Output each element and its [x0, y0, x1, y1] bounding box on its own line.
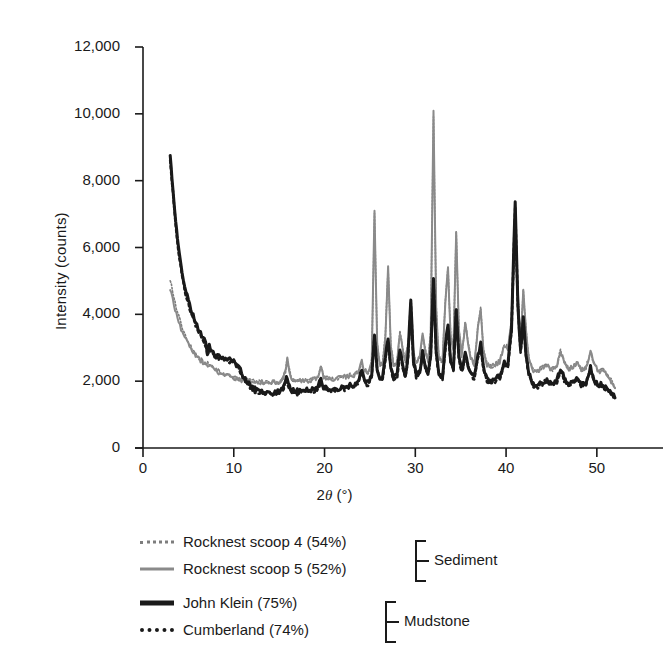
y-tick-label: 6,000 — [28, 238, 120, 255]
legend-group-label: Mudstone — [404, 612, 470, 629]
x-tick-label: 40 — [476, 459, 536, 476]
x-tick-label: 10 — [204, 459, 264, 476]
legend-swatch-john-klein — [140, 597, 174, 609]
legend-item[interactable]: John Klein (75%) — [140, 589, 570, 616]
y-tick-label: 4,000 — [28, 304, 120, 321]
x-tick-label: 20 — [295, 459, 355, 476]
legend-label: Rocknest scoop 5 (52%) — [183, 560, 346, 577]
xrd-figure: Intensity (counts) 2θ (°) 02,0004,0006,0… — [0, 0, 669, 664]
x-tick-label: 50 — [567, 459, 627, 476]
legend-swatch-rocknest-scoop-4 — [140, 536, 174, 548]
legend-item[interactable]: Cumberland (74%) — [140, 616, 570, 643]
y-tick-label: 2,000 — [28, 371, 120, 388]
y-tick-label: 10,000 — [28, 104, 120, 121]
legend-label: Cumberland (74%) — [183, 621, 309, 638]
legend-swatch-rocknest-scoop-5 — [140, 563, 174, 575]
legend-label: Rocknest scoop 4 (54%) — [183, 533, 346, 550]
y-tick-label: 12,000 — [28, 37, 120, 54]
series-line — [170, 111, 615, 388]
y-tick-label: 0 — [28, 438, 120, 455]
legend-item[interactable]: Rocknest scoop 4 (54%) — [140, 528, 570, 555]
x-tick-label: 0 — [113, 459, 173, 476]
x-tick-label: 30 — [385, 459, 445, 476]
legend-group-label: Sediment — [434, 551, 497, 568]
legend: Rocknest scoop 4 (54%) Rocknest scoop 5 … — [140, 528, 570, 643]
series-line — [170, 117, 615, 388]
legend-swatch-cumberland — [140, 624, 174, 636]
y-tick-label: 8,000 — [28, 171, 120, 188]
legend-item[interactable]: Rocknest scoop 5 (52%) — [140, 555, 570, 582]
legend-label: John Klein (75%) — [183, 594, 297, 611]
